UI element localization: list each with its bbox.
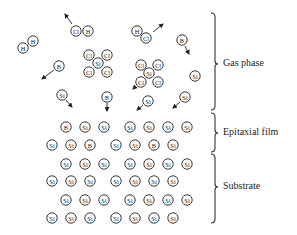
lattice-atom-si: Si [163, 195, 173, 205]
lattice-atom-si: Si [80, 195, 90, 205]
svg-text:Cl: Cl [155, 62, 161, 69]
svg-text:Si: Si [170, 178, 176, 185]
lattice-row-substrate: SiSiSiSiSiSiSi [47, 176, 178, 186]
atom-cl: Cl [71, 26, 81, 36]
svg-text:B: B [105, 94, 109, 101]
lattice-atom-si: Si [111, 213, 121, 223]
svg-text:H: H [21, 45, 26, 52]
brace-substrate [211, 154, 218, 223]
svg-text:Si: Si [68, 142, 74, 149]
svg-text:Si: Si [127, 197, 133, 204]
svg-text:Si: Si [170, 215, 176, 222]
molecule-hcl: ClH [65, 14, 93, 36]
atom-cl: Cl [136, 77, 146, 87]
region-braces [211, 13, 218, 223]
lattice-atom-si: Si [61, 159, 71, 169]
svg-text:Si: Si [151, 178, 157, 185]
lattice-atom-si: Si [61, 195, 71, 205]
svg-text:Si: Si [113, 142, 119, 149]
atom-b: B [177, 35, 187, 45]
svg-text:Si: Si [49, 142, 55, 149]
motion-arrow-icon [66, 100, 72, 107]
svg-text:Cl: Cl [86, 52, 92, 59]
molecule-hcl: HCl [132, 24, 163, 43]
svg-text:Cl: Cl [138, 79, 144, 86]
svg-text:Si: Si [87, 178, 93, 185]
svg-text:Cl: Cl [104, 69, 110, 76]
svg-text:Si: Si [184, 197, 190, 204]
lattice-atom-si: Si [182, 195, 192, 205]
svg-text:B: B [57, 63, 61, 70]
lattice-atom-si: Si [80, 159, 90, 169]
svg-text:Si: Si [101, 124, 107, 131]
motion-arrow-icon [42, 70, 54, 79]
molecule-si: Si [173, 92, 190, 108]
lattice-atom-si: Si [163, 122, 173, 132]
svg-text:Si: Si [113, 215, 119, 222]
svg-text:Si: Si [146, 124, 152, 131]
svg-text:Si: Si [82, 161, 88, 168]
lattice-atom-b: B [149, 140, 159, 150]
lattice-atom-si: Si [66, 213, 76, 223]
svg-text:H: H [135, 28, 140, 35]
gas-phase-species: HHClHHClBClClSiClClClClSiClClBSiSiBSiSi [18, 14, 200, 111]
lattice-atom-si: Si [144, 159, 154, 169]
lattice-atom-si: Si [130, 213, 140, 223]
svg-text:Si: Si [146, 161, 152, 168]
svg-text:Si: Si [87, 215, 93, 222]
lattice-row-film: SiSiBSiSiBSi [47, 140, 178, 150]
svg-text:Si: Si [165, 197, 171, 204]
lattice-atom-si: Si [149, 213, 159, 223]
lattice-atom-si: Si [47, 213, 57, 223]
lattice-atom-si: Si [66, 140, 76, 150]
svg-text:Si: Si [192, 73, 198, 80]
svg-text:Si: Si [49, 178, 55, 185]
lattice-atom-si: Si [130, 176, 140, 186]
svg-text:Si: Si [184, 161, 190, 168]
lattice-atom-si: Si [168, 176, 178, 186]
lattice-atom-si: Si [125, 159, 135, 169]
lattice-atom-si: Si [99, 122, 109, 132]
svg-text:Si: Si [59, 92, 65, 99]
substrate-label: Substrate [223, 180, 260, 191]
molecule-b: B [42, 61, 64, 79]
svg-text:Si: Si [63, 161, 69, 168]
atom-cl: Cl [141, 33, 151, 43]
motion-arrow-icon [133, 86, 136, 89]
lattice-atom-si: Si [168, 213, 178, 223]
lattice-atom-si: Si [144, 122, 154, 132]
lattice-atom-si: Si [182, 159, 192, 169]
svg-text:Si: Si [165, 161, 171, 168]
lattice-atom-si: Si [163, 159, 173, 169]
atom-cl: Cl [102, 50, 112, 60]
lattice-atom-si: Si [144, 195, 154, 205]
svg-text:Si: Si [145, 98, 151, 105]
atom-si: Si [180, 92, 190, 102]
lattice-atom-si: Si [168, 140, 178, 150]
lattice-row-film: BSiSiSiSiSiSi [61, 122, 192, 132]
svg-text:Si: Si [132, 215, 138, 222]
atom-si: Si [190, 71, 200, 81]
svg-text:B: B [88, 142, 92, 149]
lattice-atom-si: Si [85, 213, 95, 223]
gas-phase-label: Gas phase [223, 57, 264, 68]
crystal-lattice: BSiSiSiSiSiSiSiSiBSiSiBSiSiSiSiSiSiSiSiS… [47, 122, 192, 223]
lattice-atom-si: Si [125, 122, 135, 132]
svg-text:Si: Si [127, 124, 133, 131]
lattice-row-substrate: SiSiSiSiSiSiSi [47, 213, 178, 223]
molecule-b: B [177, 35, 189, 54]
atom-cl: Cl [84, 67, 94, 77]
molecule-sicl4: ClClSiClCl [84, 50, 112, 77]
svg-text:Cl: Cl [104, 52, 110, 59]
motion-arrow-icon [137, 105, 143, 110]
svg-text:Si: Si [165, 124, 171, 131]
lattice-atom-si: Si [111, 176, 121, 186]
svg-text:Si: Si [170, 142, 176, 149]
lattice-atom-si: Si [149, 176, 159, 186]
svg-text:Si: Si [101, 161, 107, 168]
svg-text:B: B [152, 142, 156, 149]
svg-text:Cl: Cl [73, 28, 79, 35]
epitaxy-diagram: HHClHHClBClClSiClClClClSiClClBSiSiBSiSi … [0, 0, 297, 235]
lattice-atom-si: Si [99, 159, 109, 169]
brace-film [211, 113, 218, 152]
